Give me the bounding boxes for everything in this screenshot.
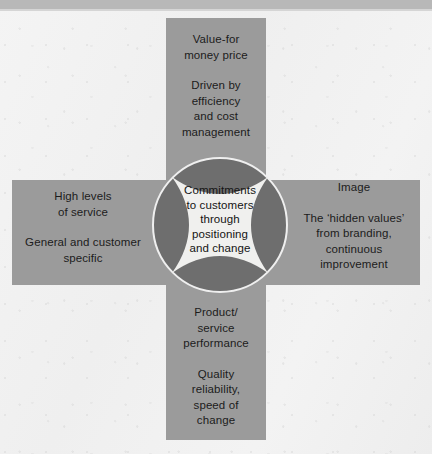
- arm-bottom-line: Quality: [166, 367, 266, 383]
- arm-top-line: and cost: [166, 109, 266, 125]
- center-line: positioning: [168, 227, 272, 242]
- diagram-page: Value-for money price Driven by efficien…: [0, 0, 432, 454]
- arm-bottom-paragraph-2: Quality reliability, speed of change: [166, 367, 266, 429]
- arm-top-line: management: [166, 125, 266, 141]
- arm-bottom-line: speed of: [166, 398, 266, 414]
- arm-top-line: Value-for: [166, 32, 266, 48]
- arm-bottom-paragraph-1: Product/ service performance: [166, 305, 266, 352]
- arm-right-line: improvement: [284, 257, 424, 273]
- arm-right-line: The ‘hidden values’: [284, 211, 424, 227]
- center-line: to customers: [168, 198, 272, 213]
- center-line: Commitments: [168, 183, 272, 198]
- arm-left-line: General and customer: [12, 235, 154, 251]
- center-text: Commitments to customers through positio…: [168, 183, 272, 256]
- arm-right-line: from branding,: [284, 226, 424, 242]
- arm-bottom-line: Product/: [166, 305, 266, 321]
- arm-top-paragraph-1: Value-for money price: [166, 32, 266, 63]
- arm-text-top: Value-for money price Driven by efficien…: [166, 32, 266, 140]
- arm-bottom-line: service: [166, 321, 266, 337]
- arm-right-line: Image: [284, 180, 424, 196]
- arm-right-paragraph-2: The ‘hidden values’ from branding, conti…: [284, 211, 424, 273]
- arm-left-line: High levels: [12, 189, 154, 205]
- arm-top-line: money price: [166, 48, 266, 64]
- page-edge-band: [0, 0, 432, 9]
- arm-left-line: of service: [12, 205, 154, 221]
- arm-left-line: specific: [12, 251, 154, 267]
- arm-text-left: High levels of service General and custo…: [12, 189, 154, 266]
- arm-top-line: Driven by: [166, 78, 266, 94]
- arm-bottom-line: performance: [166, 336, 266, 352]
- arm-bottom-line: reliability,: [166, 382, 266, 398]
- arm-right-line: continuous: [284, 242, 424, 258]
- arm-left-paragraph-1: High levels of service: [12, 189, 154, 220]
- center-emblem: Commitments to customers through positio…: [152, 157, 288, 293]
- arm-bottom-line: change: [166, 413, 266, 429]
- center-line: through: [168, 212, 272, 227]
- arm-right-paragraph-1: Image: [284, 180, 424, 196]
- center-line: and change: [168, 241, 272, 256]
- arm-top-line: efficiency: [166, 94, 266, 110]
- arm-text-right: Image The ‘hidden values’ from branding,…: [284, 180, 424, 273]
- arm-top-paragraph-2: Driven by efficiency and cost management: [166, 78, 266, 140]
- arm-text-bottom: Product/ service performance Quality rel…: [166, 305, 266, 429]
- arm-left-paragraph-2: General and customer specific: [12, 235, 154, 266]
